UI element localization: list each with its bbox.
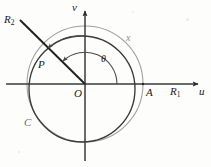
point-label-A: A: [146, 87, 153, 98]
u-axis-label: u: [199, 86, 205, 97]
theta-arc-inner: [63, 52, 117, 84]
axis-label-R1-sub: 1: [177, 90, 181, 99]
curve-label-x: x: [126, 33, 130, 43]
theta-arc-outer: [48, 36, 85, 48]
ray-label-R2-sub: 2: [11, 18, 15, 27]
theta-angle-label: θ: [101, 54, 106, 64]
point-A-marker: [142, 83, 144, 85]
v-axis-label: v: [72, 2, 77, 13]
ray-label-R2: R2: [4, 14, 14, 26]
ray-R2-line: [20, 20, 85, 84]
curve-label-C: C: [24, 117, 31, 128]
figure-container: v u O R1 R2 P A C x θ: [0, 0, 211, 167]
axis-label-R1-base: R: [170, 85, 177, 97]
scan-speckle: [18, 151, 20, 153]
diagram-canvas: [0, 0, 211, 167]
origin-label: O: [74, 88, 82, 99]
scan-speckle: [132, 11, 134, 13]
point-label-P: P: [38, 59, 45, 70]
ray-label-R2-base: R: [4, 13, 11, 25]
axis-label-R1: R1: [170, 86, 180, 98]
scan-speckle: [186, 18, 189, 21]
